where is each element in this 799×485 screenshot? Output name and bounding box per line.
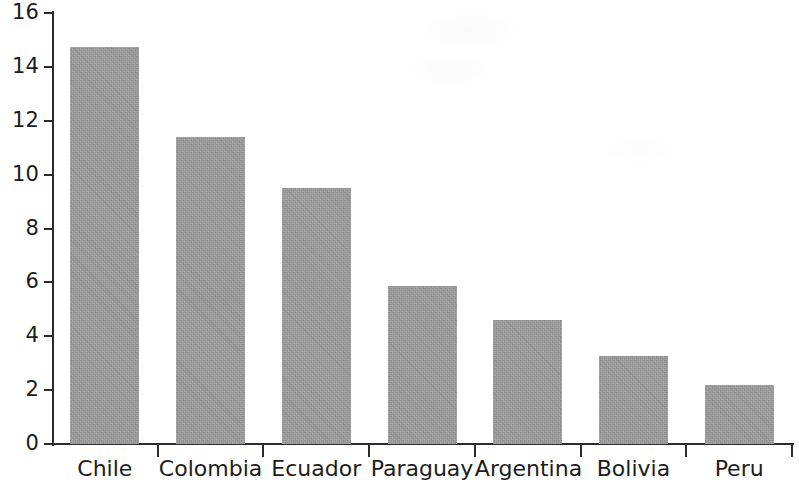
- x-axis-category-label: Ecuador: [263, 458, 369, 480]
- x-axis-category-label: Peru: [686, 458, 792, 480]
- bar: [705, 385, 774, 444]
- bar: [599, 356, 668, 444]
- y-axis-tick-label: 8: [3, 218, 39, 239]
- bar: [176, 137, 245, 444]
- bar: [70, 47, 139, 444]
- x-axis-category-label: Argentina: [475, 458, 581, 480]
- bar: [493, 320, 562, 444]
- y-axis-tick-label: 14: [3, 56, 39, 77]
- x-axis-category-label: Paraguay: [369, 458, 475, 480]
- x-axis-tick: [368, 445, 370, 457]
- y-axis-tick-label: 6: [3, 271, 39, 292]
- y-axis-tick-label: 4: [3, 325, 39, 346]
- y-axis-tick-label: 12: [3, 110, 39, 131]
- bar: [282, 188, 351, 444]
- x-axis-category-label: Colombia: [158, 458, 264, 480]
- y-axis-tick-label: 2: [3, 379, 39, 400]
- x-axis-category-label: Bolivia: [581, 458, 687, 480]
- x-axis-tick: [791, 445, 793, 457]
- x-axis-tick: [685, 445, 687, 457]
- y-axis-tick-label: 10: [3, 164, 39, 185]
- bar-chart: 0246810121416 ChileColombiaEcuadorParagu…: [0, 0, 799, 485]
- x-axis-category-label: Chile: [52, 458, 158, 480]
- bar: [388, 286, 457, 444]
- y-axis-tick-label: 16: [3, 2, 39, 23]
- x-axis-tick: [262, 445, 264, 457]
- y-axis-tick-label: 0: [3, 433, 39, 454]
- plot-area: [52, 13, 792, 444]
